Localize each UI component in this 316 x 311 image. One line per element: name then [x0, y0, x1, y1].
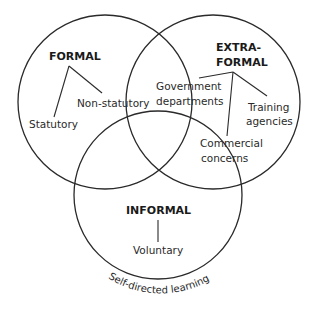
formal-to-statutory-line — [54, 66, 69, 117]
training-label-line1: Training — [247, 101, 289, 113]
venn-diagram: FORMAL Statutory Non-statutory EXTRA- FO… — [0, 0, 316, 311]
training-label-line2: agencies — [246, 115, 293, 127]
voluntary-label: Voluntary — [133, 244, 183, 256]
extra-formal-to-commercial-line — [227, 72, 233, 136]
extra-formal-heading-line2: FORMAL — [216, 56, 268, 69]
formal-heading: FORMAL — [49, 50, 101, 63]
self-directed-learning-textpath: Self-directed learning — [107, 270, 211, 295]
extra-formal-heading-line1: EXTRA- — [216, 41, 261, 54]
government-label-line1: Government — [156, 80, 221, 92]
commercial-label-line1: Commercial — [200, 137, 263, 149]
self-directed-learning-caption: Self-directed learning — [107, 270, 211, 295]
formal-to-non-statutory-line — [69, 66, 102, 93]
commercial-label-line2: concerns — [201, 152, 248, 164]
statutory-label: Statutory — [29, 118, 78, 130]
government-label-line2: departments — [156, 95, 224, 107]
informal-heading: INFORMAL — [126, 204, 191, 217]
extra-formal-to-training-line — [233, 72, 267, 96]
extra-formal-to-government-line — [199, 72, 233, 78]
non-statutory-label: Non-statutory — [77, 97, 150, 109]
